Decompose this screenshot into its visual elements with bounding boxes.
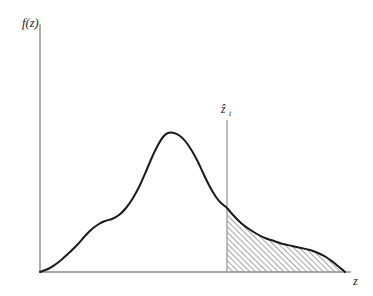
- threshold-label: ẑ t: [220, 103, 232, 118]
- figure-root: f(z) z ẑ t: [0, 0, 373, 296]
- threshold-label-main: ẑ: [220, 103, 226, 115]
- x-axis-label: z: [352, 274, 358, 288]
- threshold-label-sub: t: [229, 109, 232, 118]
- density-plot: f(z) z ẑ t: [0, 0, 373, 296]
- shaded-tail-region: [227, 208, 345, 272]
- y-axis-label: f(z): [22, 16, 39, 30]
